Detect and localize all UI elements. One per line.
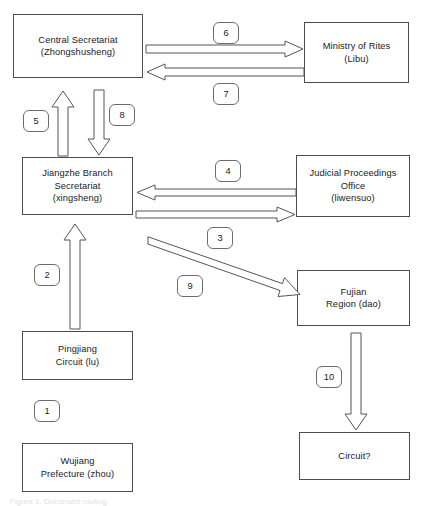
badge-edge-1: 1	[34, 400, 60, 422]
arrow-10-down	[345, 333, 367, 431]
badge-edge-8: 8	[109, 104, 135, 126]
badge-edge-10: 10	[316, 366, 342, 388]
badge-edge-3: 3	[207, 227, 233, 249]
node-jiangzhe-branch-secretariat: Jiangzhe Branch Secretariat (xingsheng)	[22, 157, 133, 215]
badge-label: 5	[33, 116, 38, 126]
node-fujian-region: Fujian Region (dao)	[297, 270, 410, 326]
arrow-8-down	[88, 90, 110, 156]
figure-caption: Figure 1. Document routing	[10, 497, 107, 506]
arrow-7-left	[146, 64, 304, 80]
badge-label: 10	[324, 372, 334, 382]
node-ministry-of-rites: Ministry of Rites (Libu)	[304, 22, 409, 83]
badge-edge-9: 9	[177, 275, 203, 297]
arrow-5-up	[52, 90, 74, 156]
node-central-secretariat: Central Secretariat (Zhongshusheng)	[13, 14, 143, 78]
badge-edge-4: 4	[215, 160, 241, 182]
badge-label: 2	[44, 270, 49, 280]
node-circuit-unknown: Circuit?	[299, 432, 410, 480]
badge-label: 1	[44, 406, 49, 416]
badge-edge-7: 7	[213, 83, 239, 105]
badge-label: 4	[225, 166, 230, 176]
node-judicial-proceedings-office: Judicial Proceedings Office (liwensuo)	[296, 155, 410, 217]
badge-edge-5: 5	[23, 110, 49, 132]
node-wujiang-prefecture: Wujiang Prefecture (zhou)	[22, 443, 133, 492]
badge-label: 8	[119, 110, 124, 120]
badge-edge-2: 2	[34, 264, 60, 286]
badge-label: 7	[223, 89, 228, 99]
node-pingjiang-circuit: Pingjiang Circuit (lu)	[22, 331, 133, 380]
arrow-3-right	[136, 207, 296, 222]
badge-label: 9	[187, 281, 192, 291]
diagram-canvas: Central Secretariat (Zhongshusheng) Mini…	[0, 0, 426, 506]
badge-label: 6	[223, 28, 228, 38]
badge-edge-6: 6	[213, 22, 239, 44]
badge-label: 3	[217, 233, 222, 243]
arrow-2-up	[64, 223, 86, 329]
arrow-4-left	[136, 185, 296, 200]
